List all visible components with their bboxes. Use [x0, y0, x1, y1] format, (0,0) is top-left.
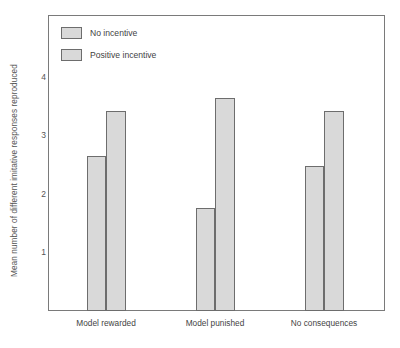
legend: No incentive Positive incentive — [61, 24, 191, 68]
bar-model-rewarded-no-incentive — [87, 156, 106, 311]
x-tick-label-model-rewarded: Model rewarded — [46, 318, 166, 328]
legend-label: No incentive — [90, 28, 137, 38]
y-axis-title: Mean number of different imitative respo… — [10, 46, 19, 296]
legend-item-positive-incentive: Positive incentive — [61, 46, 191, 64]
legend-item-no-incentive: No incentive — [61, 24, 191, 42]
x-tick-label-no-consequences: No consequences — [264, 318, 384, 328]
legend-swatch-icon — [61, 27, 82, 39]
bar-chart-figure: Mean number of different imitative respo… — [0, 0, 400, 348]
bar-model-punished-no-incentive — [196, 208, 215, 311]
y-tick-label-4: 4 — [41, 71, 46, 84]
y-tick-label-2: 2 — [41, 188, 46, 201]
y-tick-label-3: 3 — [41, 129, 46, 142]
x-tick-label-model-punished: Model punished — [155, 318, 275, 328]
bar-model-punished-positive-incentive — [215, 98, 235, 311]
bar-model-rewarded-positive-incentive — [106, 111, 126, 311]
plot-area: No incentive Positive incentive — [48, 15, 385, 311]
legend-label: Positive incentive — [90, 50, 156, 60]
legend-swatch-icon — [61, 49, 82, 61]
y-tick-label-1: 1 — [41, 246, 46, 259]
bar-no-consequences-no-incentive — [305, 166, 324, 311]
bar-no-consequences-positive-incentive — [324, 111, 344, 311]
